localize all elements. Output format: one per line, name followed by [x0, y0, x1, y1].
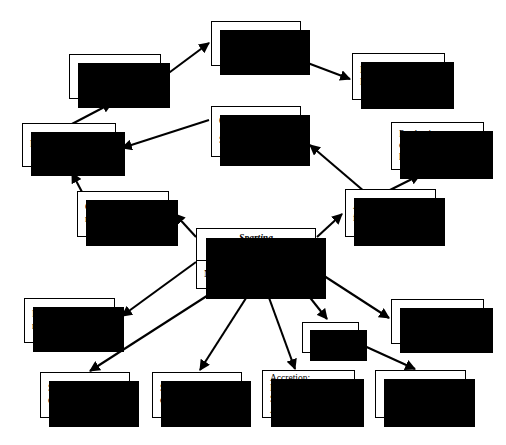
- node-label: Fish: [376, 388, 465, 400]
- node-label: Green manure: [78, 202, 168, 225]
- node-label-scientific-name: Spartina anglica: [239, 233, 273, 255]
- node-siltation[interactable]: Siltation control: [40, 372, 130, 418]
- edge-spartina-to-stabilization: [200, 295, 248, 370]
- node-label: N,P,S, micronutrients: [197, 269, 292, 281]
- node-label: Siltation control: [41, 383, 129, 406]
- node-label: Stabilization of coastline: [153, 383, 241, 406]
- node-animal-fodder[interactable]: Animal fodder: [345, 189, 436, 237]
- edge-spartina-to-fuel: [318, 272, 389, 318]
- node-illumination[interactable]: Illumination, Fuel: [352, 53, 445, 100]
- node-label: Animal fodder: [346, 201, 435, 224]
- edge-animal-fodder-to-manure: [310, 145, 365, 192]
- node-methane[interactable]: Methane: [211, 21, 301, 66]
- node-spartina-title: Spartina anglica: [197, 229, 315, 261]
- node-spartina[interactable]: Spartina anglica N,P,S, micronutrients: [196, 228, 316, 289]
- edge-spartina-to-accretion: [268, 295, 295, 369]
- node-farm-crops[interactable]: Farm Crops: [22, 123, 116, 167]
- edge-spartina-to-green-manure: [175, 214, 196, 237]
- node-label: Organic manure Stable manure: [212, 117, 300, 147]
- node-spartina-nutrients: N,P,S, micronutrients: [197, 261, 315, 288]
- node-label: Production of animal husbandry: [392, 129, 483, 164]
- diagram-canvas: Pen Padding Methane Illumination, Fuel F…: [0, 0, 506, 445]
- node-label: Methane: [212, 38, 300, 50]
- node-label: Nereids: [303, 332, 358, 344]
- node-stabilization[interactable]: Stabilization of coastline: [152, 372, 242, 418]
- edge-spartina-to-animal-fodder: [317, 214, 342, 237]
- node-production[interactable]: Production of animal husbandry: [391, 122, 484, 170]
- node-label: Paper making: [25, 309, 114, 332]
- node-pen-padding[interactable]: Pen Padding: [69, 54, 161, 99]
- node-label: Fuel: [392, 316, 483, 328]
- node-shadow: [384, 379, 475, 427]
- node-label: Pen Padding: [70, 71, 160, 83]
- node-paper-making[interactable]: Paper making: [24, 298, 115, 343]
- node-nereids[interactable]: Nereids: [302, 322, 359, 353]
- edge-pen-padding-to-methane: [166, 43, 209, 75]
- node-label: Farm Crops: [23, 139, 115, 151]
- node-label: Illumination, Fuel: [353, 65, 444, 88]
- edge-spartina-to-paper-making: [122, 262, 196, 316]
- node-fuel[interactable]: Fuel: [391, 299, 484, 344]
- node-manure[interactable]: Organic manure Stable manure: [211, 106, 301, 157]
- node-accretion[interactable]: Accretion; Reclamation; Saline Soil Amel…: [262, 370, 355, 418]
- node-green-manure[interactable]: Green manure: [77, 191, 169, 237]
- node-fish[interactable]: Fish: [375, 370, 466, 418]
- node-label: Accretion; Reclamation; Saline Soil Amel…: [263, 373, 354, 416]
- edge-manure-to-farm-crops: [122, 120, 209, 148]
- edge-methane-to-illumination: [305, 62, 350, 79]
